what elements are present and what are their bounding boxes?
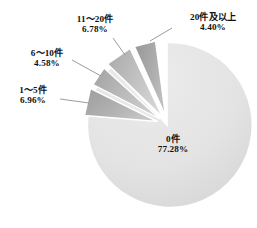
- pie-chart: 0件 77.28% 1～5件 6.96% 6～10件 4.58% 11～20件 …: [0, 0, 257, 228]
- leader-line-4: [150, 28, 172, 41]
- leader-line-3: [113, 38, 125, 55]
- pie-chart-canvas: [0, 0, 257, 228]
- leader-line-1: [60, 99, 89, 103]
- leader-line-2: [72, 60, 101, 76]
